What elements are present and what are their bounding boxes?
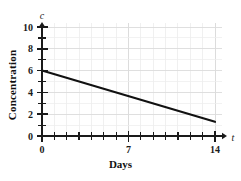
chart-figure: 07140246810 c t Concentration Days [0,0,241,181]
y-tick-label: 0 [28,131,33,142]
y-tick-label: 8 [28,43,33,54]
y-axis-variable-label: c [40,10,45,21]
x-tick-label: 7 [126,144,131,155]
y-tick-label: 10 [23,22,33,33]
y-tick-label: 2 [28,109,33,120]
x-axis-variable-label: t [232,132,235,143]
x-axis-title-text: Days [109,158,132,170]
y-tick-label: 4 [28,87,33,98]
x-tick-label: 14 [210,144,220,155]
x-tick-label: 0 [40,144,45,155]
y-axis-title: Concentration [5,30,19,140]
x-axis-title: Days [0,158,241,170]
y-tick-label: 6 [28,65,33,76]
y-axis-title-text: Concentration [6,50,18,120]
concentration-vs-days-line-chart: 07140246810 c t [0,0,241,181]
